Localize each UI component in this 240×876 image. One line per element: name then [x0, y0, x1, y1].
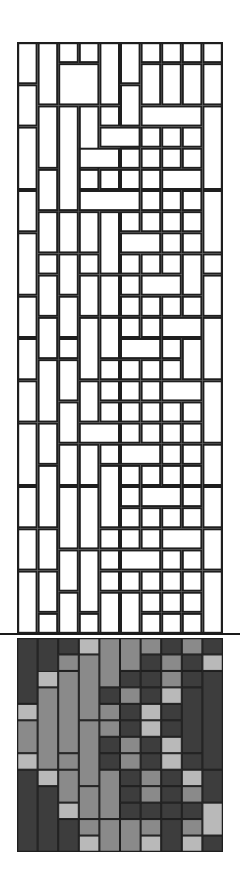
- mosaic-cell: [203, 254, 222, 273]
- mosaic-cell: [80, 614, 99, 633]
- mosaic-cell: [162, 170, 201, 189]
- mosaic-cell: [121, 85, 140, 125]
- mosaic-cell: [18, 721, 38, 753]
- mosaic-cell: [18, 297, 37, 337]
- mosaic-cell: [18, 754, 38, 769]
- mosaic-cell: [141, 639, 161, 654]
- mosaic-cell: [141, 721, 161, 736]
- mosaic-cell: [203, 671, 223, 769]
- mosaic-cell: [121, 704, 141, 719]
- mosaic-cell: [142, 276, 181, 295]
- mosaic-cell: [80, 43, 99, 62]
- mosaic-cell: [142, 318, 161, 337]
- mosaic-cell: [100, 402, 119, 421]
- mosaic-cell: [80, 170, 99, 189]
- mosaic-cell: [162, 424, 181, 443]
- mosaic-cell: [162, 445, 181, 464]
- mosaic-cell: [80, 445, 99, 485]
- mosaic-cell: [121, 466, 140, 485]
- mosaic-cell: [183, 149, 202, 168]
- mosaic-cell: [39, 529, 58, 569]
- mosaic-cell: [59, 254, 78, 294]
- mosaic-cell: [162, 212, 181, 231]
- mosaic-cell: [100, 721, 120, 736]
- mosaic-cell: [182, 639, 202, 654]
- mosaic-cell: [18, 770, 38, 851]
- mosaic-cell: [142, 297, 161, 316]
- mosaic-cell: [80, 424, 119, 443]
- mosaic-cell: [162, 639, 182, 654]
- mosaic-cell: [162, 318, 201, 337]
- mosaic-cell: [162, 529, 201, 548]
- mosaic-figure: [0, 0, 240, 876]
- mosaic-cell: [80, 212, 99, 252]
- mosaic-cell: [80, 550, 99, 611]
- mosaic-cell: [59, 550, 78, 590]
- mosaic-cell: [121, 754, 141, 769]
- mosaic-cell: [142, 43, 161, 62]
- mosaic-cell: [100, 381, 119, 400]
- mosaic-cell: [182, 787, 202, 802]
- mosaic-cell: [80, 254, 99, 273]
- mosaic-cell: [203, 276, 222, 316]
- mosaic-cell: [162, 803, 182, 818]
- mosaic-cell: [121, 787, 141, 802]
- mosaic-cell: [141, 704, 161, 719]
- mosaic-cell: [18, 43, 37, 83]
- mosaic-cell: [162, 721, 182, 736]
- mosaic-cell: [79, 655, 99, 720]
- mosaic-cell: [80, 276, 99, 316]
- mosaic-cell: [80, 318, 99, 379]
- mosaic-cell: [38, 688, 58, 769]
- mosaic-cell: [142, 424, 161, 443]
- mosaic-cell: [162, 191, 181, 210]
- mosaic-cell: [18, 128, 37, 189]
- mosaic-cell: [121, 593, 140, 633]
- mosaic-cell: [162, 254, 181, 273]
- mosaic-cell: [121, 508, 140, 527]
- mosaic-cell: [182, 836, 202, 851]
- mosaic-cell: [142, 191, 161, 210]
- mosaic-cell: [162, 360, 181, 379]
- mosaic-cell: [141, 655, 161, 670]
- mosaic-cell: [121, 402, 140, 421]
- mosaic-cell: [18, 339, 37, 379]
- mosaic-cell: [100, 170, 119, 189]
- mosaic-cell: [142, 381, 161, 400]
- mosaic-cell: [121, 721, 141, 736]
- mosaic-cell: [121, 671, 141, 686]
- top-mosaic-panel: [17, 42, 223, 634]
- mosaic-cell: [18, 381, 37, 421]
- mosaic-cell: [79, 836, 99, 851]
- mosaic-cell: [162, 787, 182, 802]
- mosaic-cell: [183, 233, 202, 252]
- mosaic-cell: [100, 639, 120, 687]
- mosaic-cell: [162, 297, 181, 316]
- mosaic-cell: [39, 360, 58, 421]
- mosaic-cell: [100, 128, 139, 147]
- mosaic-cell: [203, 64, 222, 104]
- mosaic-cell: [183, 614, 202, 633]
- mosaic-cell: [162, 508, 181, 527]
- mosaic-cell: [162, 572, 181, 591]
- mosaic-cell: [100, 318, 119, 358]
- mosaic-cell: [38, 671, 58, 686]
- mosaic-cell: [183, 550, 202, 569]
- mosaic-cell: [38, 787, 58, 852]
- mosaic-cell: [79, 639, 99, 654]
- mosaic-cell: [59, 671, 79, 752]
- mosaic-cell: [80, 381, 99, 421]
- mosaic-cell: [183, 593, 202, 612]
- mosaic-cell: [203, 106, 222, 189]
- mosaic-cell: [121, 529, 140, 548]
- mosaic-cell: [182, 754, 202, 769]
- mosaic-cell: [59, 43, 78, 62]
- mosaic-cell: [59, 212, 78, 252]
- mosaic-cell: [162, 233, 181, 252]
- mosaic-cell: [121, 254, 140, 273]
- mosaic-cell: [121, 639, 141, 671]
- mosaic-cell: [183, 402, 202, 421]
- mosaic-cell: [142, 402, 161, 421]
- section-divider: [0, 633, 240, 635]
- mosaic-cell: [162, 770, 182, 785]
